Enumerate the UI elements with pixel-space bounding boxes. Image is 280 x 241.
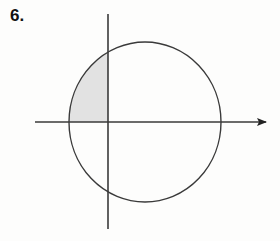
figure-container: 6. (0, 0, 280, 241)
coordinate-plane-diagram (0, 0, 280, 241)
